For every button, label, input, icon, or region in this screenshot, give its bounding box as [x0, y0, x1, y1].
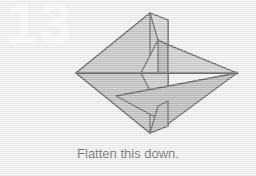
origami-step-card: 13 Flatten this down. [0, 0, 256, 176]
step-caption: Flatten this down. [0, 146, 256, 161]
right-apex-point [235, 71, 238, 74]
face-upper-left [76, 13, 150, 73]
